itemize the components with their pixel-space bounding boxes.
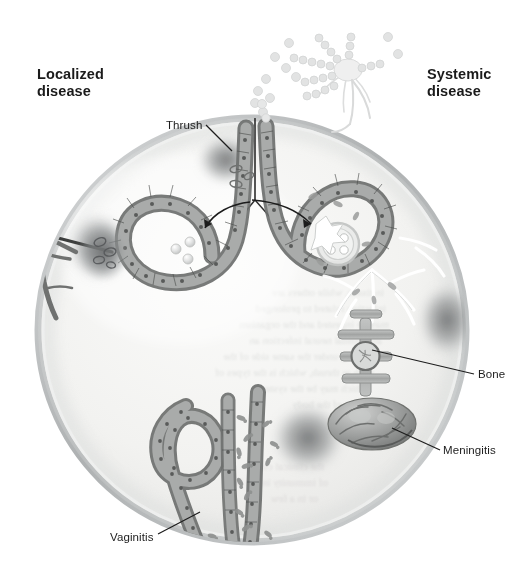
header-localized-disease: Localized disease [37,66,104,100]
callout-label-thrush: Thrush [166,119,202,131]
svg-text:or in a few: or in a few [271,492,318,504]
callout-label-meningitis: Meningitis [443,444,496,456]
callout-label-bone: Bone [478,368,505,380]
skin-lesion [78,222,130,282]
header-systemic-disease: Systemic disease [427,66,491,100]
callout-label-vaginitis: Vaginitis [110,531,154,543]
brain-meninges [328,398,416,450]
figure-canvas: in tissue, while others are infection re… [0,0,524,574]
svg-text:which may be the system: which may be the system [256,382,368,394]
spore-chains [251,33,403,117]
